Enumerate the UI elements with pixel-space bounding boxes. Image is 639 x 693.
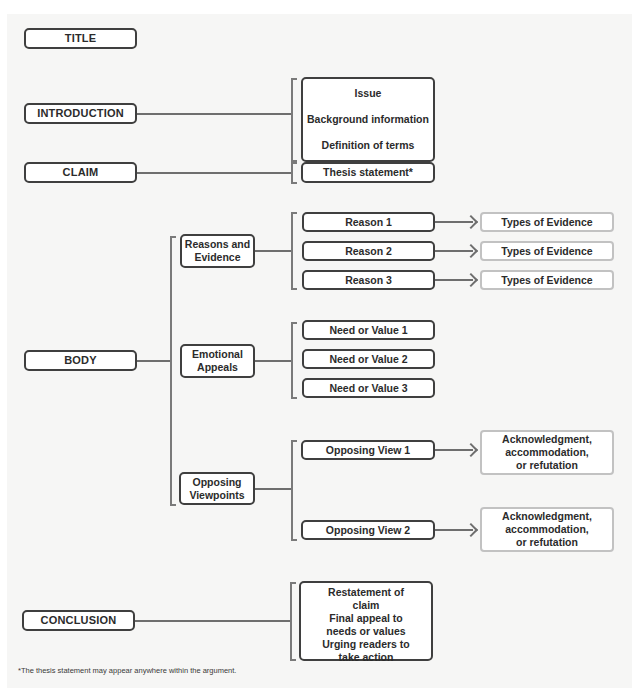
- conclusion-details-box: Restatement of claim Final appeal to nee…: [299, 581, 433, 661]
- introduction-connector: [137, 113, 293, 115]
- thesis-statement-box: Thesis statement*: [301, 162, 435, 183]
- claim-connector: [137, 172, 293, 174]
- body-connector: [137, 360, 171, 362]
- need-value-2-box: Need or Value 2: [302, 349, 435, 369]
- introduction-box: INTRODUCTION: [24, 103, 137, 124]
- conclusion-connector: [135, 620, 292, 622]
- response-1-box: Acknowledgment, accommodation, or refuta…: [480, 430, 614, 475]
- emotional-connector: [255, 360, 293, 362]
- opposing-bracket: [291, 440, 297, 541]
- emotional-bracket: [291, 322, 297, 399]
- evidence-1-box: Types of Evidence: [480, 212, 614, 232]
- conclusion-bracket: [290, 582, 296, 661]
- introduction-details-box: Issue Background information Definition …: [301, 77, 435, 162]
- introduction-bracket: [291, 78, 297, 162]
- footnote: *The thesis statement may appear anywher…: [18, 666, 236, 675]
- opposing-viewpoints-box: Opposing Viewpoints: [179, 472, 255, 505]
- intro-item-background: Background information: [307, 113, 429, 126]
- evidence-3-box: Types of Evidence: [480, 270, 614, 290]
- reasons-bracket: [291, 212, 297, 290]
- reason-3-box: Reason 3: [302, 270, 435, 290]
- opposing-view-1-box: Opposing View 1: [301, 440, 435, 460]
- intro-item-definitions: Definition of terms: [322, 139, 415, 152]
- response-2-box: Acknowledgment, accommodation, or refuta…: [480, 507, 614, 552]
- reasons-connector: [255, 250, 293, 252]
- conclusion-item-urging: Urging readers to take action: [315, 638, 417, 664]
- conclusion-item-final-appeal: Final appeal to needs or values: [315, 612, 417, 638]
- title-box: TITLE: [24, 28, 137, 49]
- reasons-evidence-box: Reasons and Evidence: [180, 234, 255, 268]
- opposing-view-2-box: Opposing View 2: [301, 520, 435, 540]
- opposing-connector: [255, 488, 293, 490]
- conclusion-item-restatement: Restatement of claim: [315, 586, 417, 612]
- emotional-appeals-box: Emotional Appeals: [180, 344, 255, 378]
- intro-item-issue: Issue: [355, 87, 382, 100]
- need-value-1-box: Need or Value 1: [302, 320, 435, 340]
- reason-1-box: Reason 1: [302, 212, 435, 232]
- reason-2-box: Reason 2: [302, 241, 435, 261]
- claim-box: CLAIM: [24, 162, 137, 183]
- conclusion-box: CONCLUSION: [22, 610, 135, 631]
- evidence-2-box: Types of Evidence: [480, 241, 614, 261]
- need-value-3-box: Need or Value 3: [302, 378, 435, 398]
- body-box: BODY: [24, 350, 137, 371]
- body-bracket: [170, 236, 176, 506]
- claim-bracket: [291, 162, 297, 184]
